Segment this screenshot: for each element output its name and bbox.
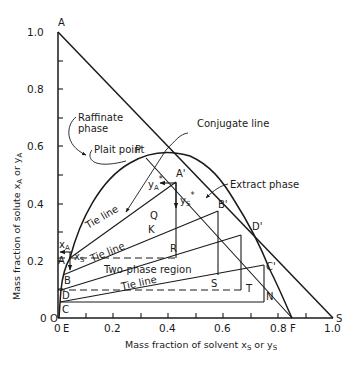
tie-line-label-2: Tie line xyxy=(88,240,126,264)
yS-star-label: yS* xyxy=(180,191,194,208)
point-N-label: N xyxy=(266,291,273,302)
y-tick-label: 0.8 xyxy=(27,83,44,95)
extract-phase-label: Extract phase xyxy=(230,179,299,190)
ternary-phase-diagram: 1.0 0.8 0.6 0.4 0.2 0 0 0.2 0.4 0.6 0.8 … xyxy=(0,0,362,367)
point-E-label: E xyxy=(63,323,69,334)
point-C-label: C xyxy=(62,304,69,315)
point-K-label: K xyxy=(148,224,155,235)
origin-O-label: O xyxy=(50,313,58,324)
hypotenuse-line xyxy=(58,32,333,318)
x-tick-label: 0.6 xyxy=(214,322,231,334)
vertex-A-label: A xyxy=(58,17,65,28)
yA-star-label: yA* xyxy=(148,175,163,192)
raffinate-phase-label: Raffinate xyxy=(78,112,123,123)
point-B-label: B xyxy=(64,275,71,286)
x-tick-label: 0.8 xyxy=(270,322,287,334)
xS-label: xS xyxy=(74,251,85,264)
y-tick-label: 1.0 xyxy=(27,26,44,38)
point-C-prime-label: C' xyxy=(266,261,276,272)
tie-line-label-1: Tie line xyxy=(83,203,121,231)
xA-label: xA xyxy=(59,239,70,252)
point-D-label: D xyxy=(62,290,70,301)
point-Q-label: Q xyxy=(150,210,158,221)
point-A-label: A xyxy=(58,255,65,266)
point-P-label: P xyxy=(135,144,141,155)
tie-line-label-3: Tie line xyxy=(119,274,157,292)
x-tick-label: 0.2 xyxy=(104,322,121,334)
point-T-label: T xyxy=(245,283,253,294)
y-axis-title: Mass fraction of solute xA or yA xyxy=(11,153,24,300)
point-D-prime-label: D' xyxy=(252,221,262,232)
y-tick-label: 0 xyxy=(40,312,47,324)
x-axis-title: Mass fraction of solvent xS or yS xyxy=(125,339,278,352)
point-S-inner-label: S xyxy=(211,278,217,289)
vertex-S-label: S xyxy=(336,313,342,324)
conjugate-line-label: Conjugate line xyxy=(197,118,269,129)
raffinate-phase-label-2: phase xyxy=(78,123,108,134)
y-tick-label: 0.2 xyxy=(27,255,44,267)
y-tick-label: 0.4 xyxy=(27,198,44,210)
point-F-label: F xyxy=(290,323,296,334)
point-B-prime-label: B' xyxy=(218,199,228,210)
point-A-prime-label: A' xyxy=(176,168,186,179)
y-tick-label: 0.6 xyxy=(27,140,44,152)
point-R-label: R xyxy=(170,243,177,254)
two-phase-region-label: Two-phase region xyxy=(103,264,192,275)
x-tick-label: 0.4 xyxy=(159,322,176,334)
